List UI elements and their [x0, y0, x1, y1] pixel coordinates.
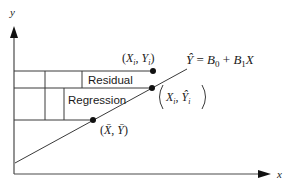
observed-point-label: (Xi, Yi) — [122, 51, 155, 67]
y-axis: y — [9, 6, 18, 174]
fitted-label-open-paren — [160, 85, 164, 109]
svg-text:Xi, Ŷi: Xi, Ŷi — [165, 90, 191, 106]
fitted-label-close-paren — [202, 85, 206, 109]
fitted-point-label: Xi, Ŷi — [160, 85, 206, 109]
regression-label: Regression — [68, 94, 126, 106]
regression-decomposition-diagram: y x Residual Regression (Xi, Yi) Xi, Ŷi … — [0, 0, 292, 188]
y-axis-label: y — [9, 6, 15, 18]
mean-point-label: (X̄, Ȳ) — [100, 123, 128, 137]
regression-equation: Ŷ = B0 + B1X — [186, 52, 255, 69]
fitted-point — [149, 85, 155, 91]
x-axis-arrow-icon — [258, 170, 271, 178]
y-axis-arrow-icon — [10, 26, 18, 38]
x-axis: x — [14, 168, 282, 180]
observed-point — [150, 68, 156, 74]
residual-label: Residual — [88, 74, 133, 86]
x-axis-label: x — [276, 168, 282, 180]
mean-point — [90, 117, 96, 123]
